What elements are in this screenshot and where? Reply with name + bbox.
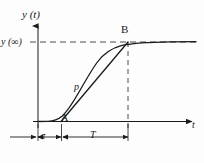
t-axis-label: t [192,120,195,130]
point-a-label: A [61,113,68,123]
point-b-label: B [121,24,128,35]
y-axis-label: y (t) [22,9,40,20]
steady-state-value-label: y (∞) [1,37,22,47]
inflection-point-label: p [74,82,79,92]
response-curve [38,42,196,122]
process-reaction-curve-figure: y (t) y (∞) B p A τ T t [0,0,204,163]
plot-canvas [0,0,204,163]
inflection-tangent-line [61,42,128,122]
time-constant-label: T [90,130,96,140]
dead-time-label: τ [42,131,46,141]
